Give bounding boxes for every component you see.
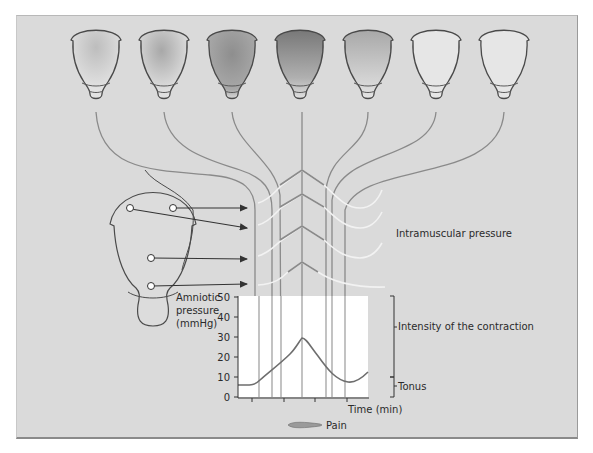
electrode-2 [170, 205, 177, 212]
electrode-3 [148, 255, 155, 262]
uterus-stage-7 [479, 30, 529, 98]
intramuscular-pressure-label: Intramuscular pressure [396, 228, 512, 239]
ytick-0: 0 [224, 392, 230, 403]
pain-glyph-icon [288, 422, 322, 428]
uterus-stage-5 [343, 30, 393, 98]
uterus-stage-4 [275, 30, 325, 98]
uterus-stage-6 [411, 30, 461, 98]
uterus-stage-1 [71, 30, 121, 98]
uterus-row [71, 30, 529, 98]
ytick-30: 30 [217, 332, 230, 343]
uterine-contraction-diagram: 50 40 30 20 10 0 Amniotic pressure (mmHg… [0, 0, 593, 453]
uterus-stage-3 [207, 30, 257, 98]
intensity-label: Intensity of the contraction [398, 321, 534, 332]
electrode-1 [127, 205, 134, 212]
ylabel-line1: Amniotic [176, 292, 220, 303]
ytick-20: 20 [217, 352, 230, 363]
pain-indicator: Pain [288, 420, 347, 431]
xlabel-time: Time (min) [347, 404, 402, 415]
amniotic-pressure-chart: 50 40 30 20 10 0 Amniotic pressure (mmHg… [176, 292, 534, 415]
ytick-10: 10 [217, 372, 230, 383]
ylabel-line2: pressure [176, 305, 219, 316]
ylabel-line3: (mmHg) [176, 318, 217, 329]
uterus-stage-2 [139, 30, 189, 98]
pain-label: Pain [326, 420, 347, 431]
electrode-4 [148, 283, 155, 290]
tonus-label: Tonus [397, 381, 426, 392]
